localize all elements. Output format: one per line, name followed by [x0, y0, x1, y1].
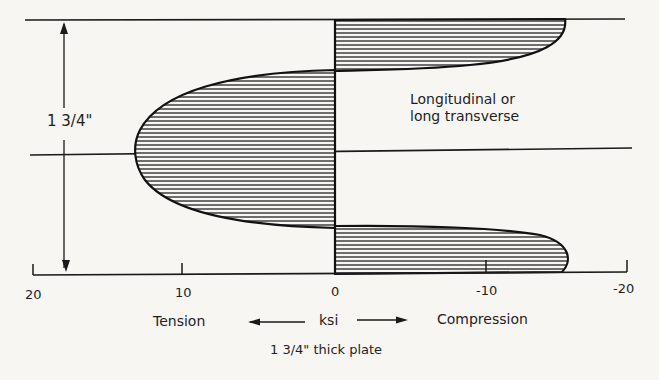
- tick-label-20: 20: [25, 287, 42, 302]
- caption: 1 3/4" thick plate: [270, 342, 382, 357]
- arrow-left-icon: [248, 319, 260, 326]
- thickness-label: 1 3/4": [47, 112, 92, 130]
- x-axis: [33, 272, 627, 275]
- bottom-compression-lobe: [335, 226, 568, 274]
- tension-label: Tension: [153, 313, 205, 329]
- compression-label: Compression: [437, 311, 528, 327]
- annotation-line-1: Longitudinal or: [410, 91, 515, 107]
- arrow-right-icon: [396, 317, 408, 324]
- tick-label-10: 10: [175, 285, 192, 300]
- tick-label-0: 0: [331, 284, 339, 299]
- annotation-line-2: long transverse: [410, 108, 519, 124]
- arrow-up-icon: [60, 22, 68, 34]
- arrow-down-icon: [62, 260, 70, 272]
- tension-lobe: [135, 70, 335, 228]
- tick-label-minus10: -10: [476, 283, 497, 298]
- tick-label-minus20: -20: [613, 281, 634, 296]
- top-compression-lobe: [335, 19, 565, 71]
- ksi-label: ksi: [319, 312, 338, 328]
